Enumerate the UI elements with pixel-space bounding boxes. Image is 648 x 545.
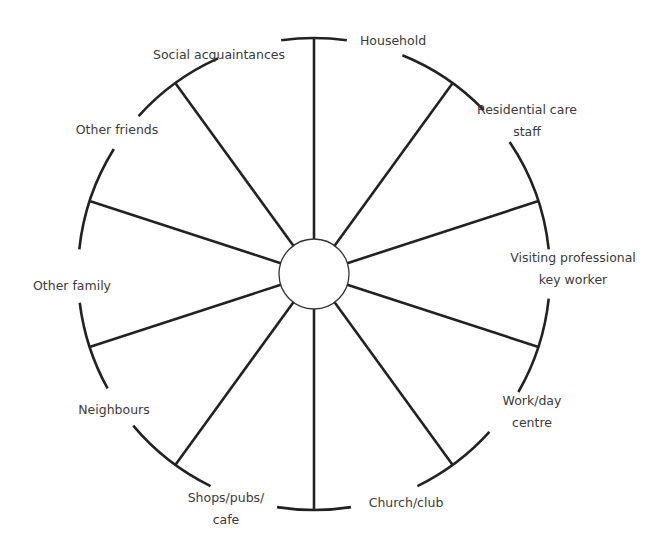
label-line: Shops/pubs/ <box>188 487 265 509</box>
spoke-line <box>175 83 293 246</box>
label-church-club: Church/club <box>369 492 444 514</box>
label-other-friends: Other friends <box>76 119 159 141</box>
label-visiting-professional: Visiting professionalkey worker <box>510 247 636 291</box>
spoke-line <box>335 302 453 465</box>
label-line: Residential care <box>477 99 577 121</box>
label-line: Work/day <box>503 390 562 412</box>
label-line: Neighbours <box>78 399 150 421</box>
outer-arc-segment <box>402 55 483 110</box>
label-other-family: Other family <box>33 275 111 297</box>
spoke-line <box>335 83 453 246</box>
outer-arc-segment <box>417 432 489 486</box>
label-line: staff <box>477 121 577 143</box>
label-line: centre <box>503 412 562 434</box>
spoke-line <box>175 302 293 465</box>
label-work-day-centre: Work/daycentre <box>503 390 562 434</box>
label-social-acquaintances: Social acquaintances <box>153 44 285 66</box>
label-neighbours: Neighbours <box>78 399 150 421</box>
outer-arc-segment <box>79 149 114 249</box>
label-residential-care-staff: Residential carestaff <box>477 99 577 143</box>
label-line: Visiting professional <box>510 247 636 269</box>
label-line: Other friends <box>76 119 159 141</box>
label-line: Other family <box>33 275 111 297</box>
label-household: Household <box>360 30 426 52</box>
label-line: key worker <box>510 269 636 291</box>
spoke-line <box>90 201 281 263</box>
label-line: Household <box>360 30 426 52</box>
center-circle <box>279 239 349 309</box>
spoke-line <box>347 285 538 347</box>
label-line: Church/club <box>369 492 444 514</box>
label-shops-pubs-cafe: Shops/pubs/cafe <box>188 487 265 531</box>
label-line: cafe <box>188 509 265 531</box>
outer-arc-segment <box>133 426 210 486</box>
spoke-line <box>90 285 281 347</box>
outer-arc-segment <box>510 142 549 249</box>
label-line: Social acquaintances <box>153 44 285 66</box>
